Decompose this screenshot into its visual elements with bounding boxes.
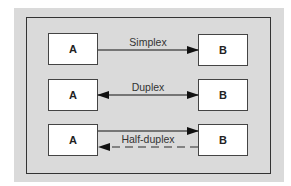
half-duplex-return-arrowhead <box>98 143 110 151</box>
links-layer <box>0 0 291 186</box>
